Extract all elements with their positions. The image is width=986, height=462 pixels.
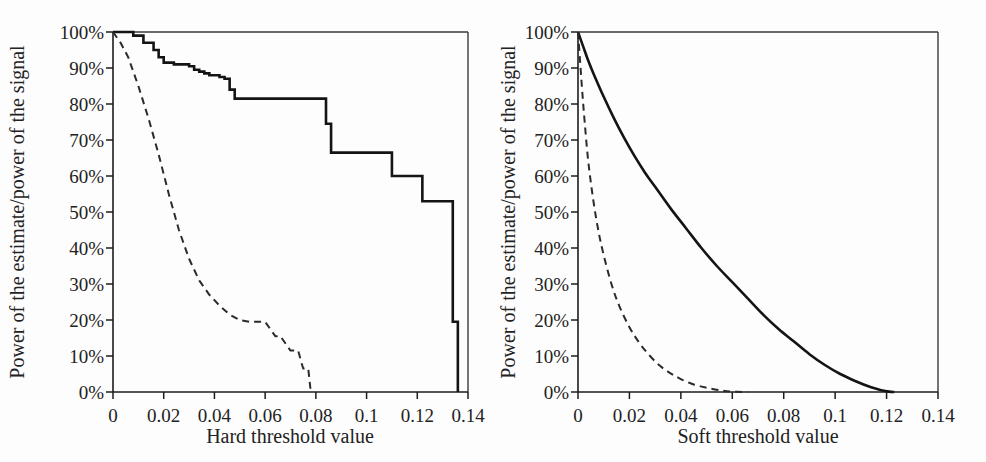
y-axis-title-right: Power of the estimate/power of the signa… <box>497 45 520 379</box>
x-tick-label: 0.06 <box>716 405 749 426</box>
figure-root: 0%10%20%30%40%50%60%70%80%90%100% 00.020… <box>0 0 986 462</box>
y-tick-label: 10% <box>69 346 104 367</box>
y-tick-label: 100% <box>525 22 570 43</box>
plot-frame-left <box>113 32 468 392</box>
y-tick-label: 10% <box>534 346 569 367</box>
x-tick-label: 0.14 <box>921 405 955 426</box>
y-tick-label: 30% <box>534 274 569 295</box>
x-tick-label: 0.06 <box>249 405 282 426</box>
x-tick-label: 0.02 <box>613 405 646 426</box>
y-axis-ticks-left: 0%10%20%30%40%50%60%70%80%90%100% <box>60 22 113 403</box>
x-tick-label: 0.14 <box>451 405 485 426</box>
x-axis-title-right: Soft threshold value <box>677 425 838 447</box>
y-tick-label: 50% <box>69 202 104 223</box>
y-axis-title-left: Power of the estimate/power of the signa… <box>6 45 29 379</box>
hard-threshold-svg: 0%10%20%30%40%50%60%70%80%90%100% 00.020… <box>0 0 493 462</box>
y-tick-label: 50% <box>534 202 569 223</box>
plot-frame-right <box>578 32 938 392</box>
x-tick-label: 0.12 <box>401 405 434 426</box>
y-tick-label: 20% <box>534 310 569 331</box>
y-tick-label: 30% <box>69 274 104 295</box>
data-series-left <box>113 32 458 392</box>
x-tick-label: 0.1 <box>355 405 379 426</box>
x-axis-title-left: Hard threshold value <box>206 425 374 447</box>
y-tick-label: 60% <box>534 166 569 187</box>
soft-threshold-svg: 0%10%20%30%40%50%60%70%80%90%100% 00.020… <box>493 0 986 462</box>
y-tick-label: 40% <box>69 238 104 259</box>
y-tick-label: 100% <box>60 22 105 43</box>
y-tick-label: 40% <box>534 238 569 259</box>
y-tick-label: 20% <box>69 310 104 331</box>
series-line-hard-threshold-dashed <box>113 32 311 392</box>
y-axis-ticks-right: 0%10%20%30%40%50%60%70%80%90%100% <box>525 22 578 403</box>
x-tick-label: 0 <box>108 405 118 426</box>
x-tick-label: 0.08 <box>299 405 332 426</box>
y-tick-label: 90% <box>534 58 569 79</box>
series-line-soft-threshold-dashed <box>578 32 748 392</box>
data-series-right <box>578 32 894 392</box>
y-tick-label: 80% <box>534 94 569 115</box>
x-axis-ticks-right: 00.020.040.060.080.10.120.14 <box>573 392 955 426</box>
x-tick-label: 0 <box>573 405 583 426</box>
x-tick-label: 0.04 <box>198 405 232 426</box>
y-tick-label: 0% <box>79 382 105 403</box>
chart-panel-hard-threshold: 0%10%20%30%40%50%60%70%80%90%100% 00.020… <box>0 0 493 462</box>
y-tick-label: 90% <box>69 58 104 79</box>
y-tick-label: 80% <box>69 94 104 115</box>
x-tick-label: 0.12 <box>870 405 903 426</box>
x-axis-ticks-left: 00.020.040.060.080.10.120.14 <box>108 392 485 426</box>
y-tick-label: 70% <box>534 130 569 151</box>
x-tick-label: 0.04 <box>664 405 698 426</box>
series-line-soft-threshold-solid <box>578 32 894 392</box>
y-tick-label: 0% <box>544 382 570 403</box>
series-line-hard-threshold-solid <box>113 32 458 392</box>
x-tick-label: 0.02 <box>147 405 180 426</box>
x-tick-label: 0.1 <box>823 405 847 426</box>
x-tick-label: 0.08 <box>767 405 800 426</box>
y-tick-label: 70% <box>69 130 104 151</box>
chart-panel-soft-threshold: 0%10%20%30%40%50%60%70%80%90%100% 00.020… <box>493 0 986 462</box>
y-tick-label: 60% <box>69 166 104 187</box>
